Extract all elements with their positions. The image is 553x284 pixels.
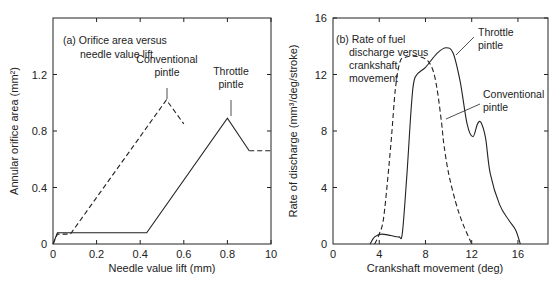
panel-a-y-axis-label: Annular orifice area (mm²) bbox=[8, 67, 20, 195]
series-conventional-pintle bbox=[375, 56, 472, 244]
panel-a-series bbox=[53, 100, 271, 244]
x-tick-label: 0.4 bbox=[133, 248, 148, 260]
figure: 00.20.40.60.81000.40.81.2 Conventionalpi… bbox=[0, 0, 553, 284]
panel-a-title-line-2: needle value lift bbox=[80, 48, 153, 60]
panel-b-title-line-1: (b) Rate of fuel bbox=[336, 33, 405, 45]
panel-a-x-axis-label: Needle value lift (mm) bbox=[109, 262, 216, 274]
panel-b-y-axis-label: Rate of discharge (mm³/deg/stroke) bbox=[287, 44, 299, 217]
annotation-leader-line bbox=[446, 104, 480, 119]
x-tick-label: 4 bbox=[376, 248, 382, 260]
series-conventional-pintle bbox=[53, 100, 184, 244]
x-tick-label: 0.2 bbox=[89, 248, 104, 260]
panel-b-annotations: ThrottlepintleConventionalpintle bbox=[446, 26, 544, 119]
x-tick-label: 0.6 bbox=[176, 248, 191, 260]
series-throttle-pintle bbox=[53, 118, 249, 244]
y-tick-label: 1.2 bbox=[32, 69, 47, 81]
annotation-label: pintle bbox=[478, 39, 503, 51]
annotation-leader-line bbox=[456, 37, 474, 55]
panel-a-tick-labels: 00.20.40.60.81000.40.81.2 bbox=[32, 69, 277, 261]
annotation-label: pintle bbox=[218, 78, 243, 90]
x-tick-label: 0 bbox=[330, 248, 336, 260]
panel-a-annotations: ConventionalpintleThrottlepintle bbox=[136, 53, 249, 116]
panel-a-title-line-1: (a) Orifice area versus bbox=[63, 34, 167, 46]
y-tick-label: 16 bbox=[315, 12, 327, 24]
panel-b-x-axis-label: Crankshaft movement (deg) bbox=[367, 262, 503, 274]
annotation-label: pintle bbox=[154, 66, 179, 78]
y-tick-label: 0 bbox=[321, 238, 327, 250]
y-tick-label: 0.8 bbox=[32, 125, 47, 137]
panel-b-title-line-3: crankshaft bbox=[349, 59, 398, 71]
x-tick-label: 10 bbox=[265, 248, 277, 260]
panel-b-title-line-2: discharge versus bbox=[349, 46, 428, 58]
x-tick-label: 12 bbox=[466, 248, 478, 260]
panel-b-discharge-rate: 04812160481216 ThrottlepintleConventiona… bbox=[287, 12, 548, 274]
annotation-label: pintle bbox=[483, 101, 508, 113]
y-tick-label: 0 bbox=[41, 238, 47, 250]
annotation-label: Conventional bbox=[483, 88, 544, 100]
panel-b-title-line-4: movement bbox=[349, 72, 398, 84]
y-tick-label: 0.4 bbox=[32, 182, 47, 194]
x-tick-label: 8 bbox=[422, 248, 428, 260]
annotation-label: Throttle bbox=[213, 65, 249, 77]
panel-a-orifice-area: 00.20.40.60.81000.40.81.2 Conventionalpi… bbox=[8, 18, 277, 274]
x-tick-label: 0 bbox=[50, 248, 56, 260]
x-tick-label: 16 bbox=[512, 248, 524, 260]
y-tick-label: 4 bbox=[321, 182, 327, 194]
y-tick-label: 8 bbox=[321, 125, 327, 137]
y-tick-label: 12 bbox=[315, 69, 327, 81]
annotation-label: Throttle bbox=[478, 26, 514, 38]
x-tick-label: 0.8 bbox=[220, 248, 235, 260]
